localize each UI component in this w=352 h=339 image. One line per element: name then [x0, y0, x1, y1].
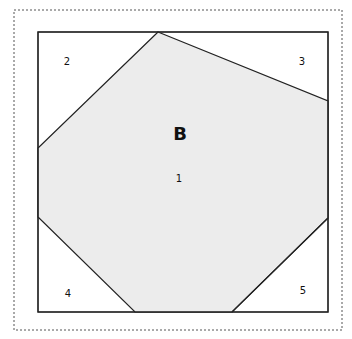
- region-label-1: 1: [176, 173, 182, 184]
- region-letter: B: [173, 123, 187, 144]
- region-label-5: 5: [300, 285, 306, 296]
- region-label-3: 3: [299, 56, 305, 67]
- region-label-2: 2: [64, 56, 70, 67]
- region-label-4: 4: [65, 288, 71, 299]
